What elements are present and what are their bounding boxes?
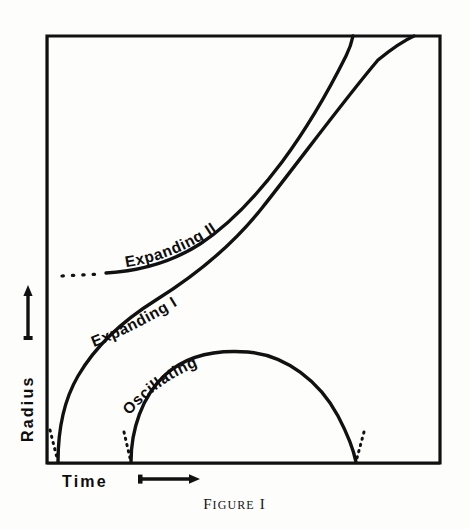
right-arrow-tail: [138, 475, 143, 484]
axis-frame: [47, 36, 440, 463]
expanding-2-path: [106, 36, 353, 273]
up-arrow-tail: [24, 336, 33, 340]
figure-caption-number: I: [260, 496, 266, 512]
curve-label-expanding-1-text: Expanding I: [89, 293, 180, 350]
x-axis-label: Time: [62, 473, 108, 490]
figure-caption-first-letter: F: [203, 496, 212, 512]
curve-label-oscillating: Oscillating: [119, 353, 200, 417]
figure-container: Expanding II Expanding I Oscillating Rad…: [0, 0, 469, 529]
curve-label-expanding-2-text: Expanding II: [124, 219, 220, 270]
up-arrow-head: [23, 285, 32, 296]
expanding-1-path: [58, 36, 414, 462]
y-axis-label-group: Radius: [19, 285, 36, 442]
up-arrow-icon: [23, 285, 32, 340]
frame-rect: [47, 36, 440, 463]
x-axis-label-group: Time: [62, 473, 200, 490]
oscillating-right-tangent-dots: [357, 432, 364, 458]
figure-plot: Expanding II Expanding I Oscillating Rad…: [0, 0, 469, 529]
curve-label-oscillating-text: Oscillating: [119, 353, 200, 417]
oscillating-left-tangent-dots: [124, 432, 130, 458]
figure-caption: FIGUREI: [0, 496, 469, 513]
right-arrow-head: [189, 474, 200, 483]
expanding-1-origin-tangent-dots: [50, 430, 57, 458]
y-axis-label: Radius: [19, 375, 36, 442]
expanding-2-left-dots: [62, 274, 100, 276]
right-arrow-icon: [138, 474, 200, 483]
figure-caption-rest: IGURE: [213, 498, 255, 512]
curve-label-expanding-2: Expanding II: [124, 219, 220, 270]
curve-expanding-1: [50, 36, 414, 462]
curve-oscillating: [124, 351, 364, 462]
curve-label-expanding-1: Expanding I: [89, 293, 180, 350]
